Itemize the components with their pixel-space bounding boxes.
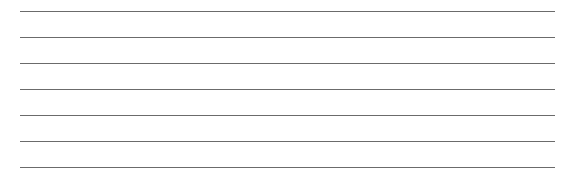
ruled-line-7 (20, 167, 555, 168)
ruled-line-4 (20, 89, 555, 90)
ruled-line-6 (20, 141, 555, 142)
ruled-line-1 (20, 11, 555, 12)
ruled-line-2 (20, 37, 555, 38)
ruled-line-5 (20, 115, 555, 116)
ruled-line-3 (20, 63, 555, 64)
